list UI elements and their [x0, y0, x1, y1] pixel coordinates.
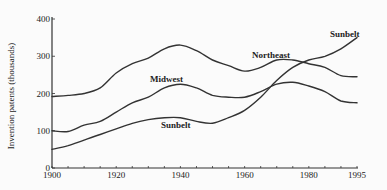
series-label-extra: Sunbelt — [330, 29, 360, 39]
y-axis-title-group: Invention patents (thousands) — [6, 43, 16, 149]
y-tick-label: 200 — [37, 89, 51, 99]
series-lines — [52, 38, 357, 150]
x-tick-label: 1960 — [236, 170, 255, 180]
series-label-sunbelt: Sunbelt — [161, 120, 191, 130]
series-line-sunbelt — [52, 38, 357, 150]
x-tick-label: 1940 — [171, 170, 190, 180]
x-tick-label: 1900 — [43, 170, 62, 180]
x-tick-label: 1920 — [107, 170, 126, 180]
y-tick-label: 400 — [37, 14, 51, 24]
y-tick-label: 300 — [37, 51, 51, 61]
series-labels: NortheastMidwestSunbeltSunbelt — [150, 29, 360, 130]
line-chart: Invention patents (thousands) 0100200300… — [0, 0, 387, 190]
y-tick-label: 100 — [37, 126, 51, 136]
series-label-northeast: Northeast — [252, 50, 290, 60]
x-tick-label: 1995 — [348, 170, 367, 180]
series-line-northeast — [52, 45, 357, 96]
series-label-midwest: Midwest — [150, 74, 183, 84]
y-axis-title: Invention patents (thousands) — [6, 43, 16, 149]
x-tick-label: 1980 — [300, 170, 319, 180]
